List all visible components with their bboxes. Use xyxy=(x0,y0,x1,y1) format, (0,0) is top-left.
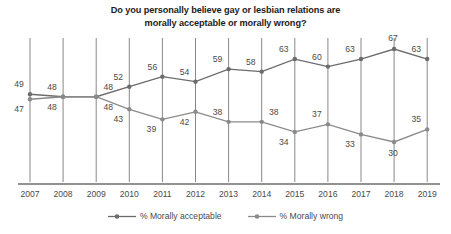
data-point-label: 48 xyxy=(47,82,57,92)
data-point-marker xyxy=(293,57,297,61)
data-point-label: 63 xyxy=(279,44,289,54)
data-point-label: 56 xyxy=(148,62,158,72)
x-axis-tick-label: 2011 xyxy=(153,189,171,199)
plot-area: 2007200820092010201120122013201420152016… xyxy=(0,0,451,234)
data-point-label: 49 xyxy=(14,79,24,89)
x-axis-tick-label: 2019 xyxy=(418,189,437,199)
data-point-label: 63 xyxy=(345,44,355,54)
x-axis-tick-label: 2016 xyxy=(318,189,337,199)
data-point-marker xyxy=(359,57,363,61)
data-point-label: 43 xyxy=(114,114,124,124)
data-point-label: 30 xyxy=(388,148,398,158)
data-point-label: 35 xyxy=(411,114,421,124)
data-point-marker xyxy=(425,57,429,61)
legend-item-acceptable[interactable]: % Morally acceptable xyxy=(108,211,222,221)
data-point-label: 38 xyxy=(213,107,223,117)
data-point-label: 48 xyxy=(103,102,113,112)
x-axis-tick-label: 2018 xyxy=(385,189,404,199)
data-point-label: 42 xyxy=(180,117,190,127)
legend-marker-icon xyxy=(248,212,276,221)
gridlines xyxy=(30,38,427,182)
data-point-marker xyxy=(359,132,363,136)
x-axis-tick-label: 2007 xyxy=(20,189,39,199)
data-point-marker xyxy=(326,122,330,126)
data-point-label: 38 xyxy=(269,107,279,117)
data-point-marker xyxy=(226,120,230,124)
data-point-label: 39 xyxy=(147,124,157,134)
data-point-label: 67 xyxy=(388,33,398,43)
data-point-marker xyxy=(392,47,396,51)
data-point-label: 54 xyxy=(180,67,190,77)
data-point-label: 60 xyxy=(312,52,322,62)
data-point-label: 48 xyxy=(103,82,113,92)
legend-marker-icon xyxy=(108,212,136,221)
x-axis-tick-label: 2009 xyxy=(87,189,106,199)
x-axis-tick-label: 2008 xyxy=(54,189,73,199)
x-axis-tick-label: 2013 xyxy=(219,189,238,199)
data-point-marker xyxy=(160,74,164,78)
data-point-marker xyxy=(260,120,264,124)
data-point-marker xyxy=(326,64,330,68)
data-point-label: 58 xyxy=(246,57,256,67)
data-point-label: 33 xyxy=(345,139,355,149)
data-point-label: 37 xyxy=(312,109,322,119)
data-point-marker xyxy=(425,127,429,131)
chart-legend: % Morally acceptable% Morally wrong xyxy=(0,211,451,221)
data-point-label: 48 xyxy=(47,102,57,112)
x-axis-tick-label: 2014 xyxy=(252,189,271,199)
data-point-marker xyxy=(94,95,98,99)
data-point-marker xyxy=(193,110,197,114)
x-axis-tick-label: 2010 xyxy=(120,189,139,199)
data-point-label: 47 xyxy=(14,104,24,114)
data-point-marker xyxy=(226,67,230,71)
chart-container: Do you personally believe gay or lesbian… xyxy=(0,0,451,234)
data-point-marker xyxy=(293,130,297,134)
data-point-label: 59 xyxy=(213,54,223,64)
data-point-marker xyxy=(392,140,396,144)
legend-item-label: % Morally wrong xyxy=(280,211,344,221)
data-point-label: 52 xyxy=(114,72,124,82)
legend-item-label: % Morally acceptable xyxy=(140,211,222,221)
data-point-marker xyxy=(28,92,32,96)
data-point-marker xyxy=(127,84,131,88)
x-axis-tick-label: 2015 xyxy=(285,189,304,199)
x-axis-tick-label: 2017 xyxy=(351,189,370,199)
data-point-marker xyxy=(160,117,164,121)
data-point-marker xyxy=(61,95,65,99)
data-point-marker xyxy=(260,69,264,73)
x-axis-tick-label: 2012 xyxy=(186,189,205,199)
data-point-label: 34 xyxy=(279,137,289,147)
data-point-marker xyxy=(28,97,32,101)
legend-item-wrong[interactable]: % Morally wrong xyxy=(248,211,344,221)
data-point-marker xyxy=(193,79,197,83)
data-point-label: 63 xyxy=(411,44,421,54)
data-point-marker xyxy=(127,107,131,111)
